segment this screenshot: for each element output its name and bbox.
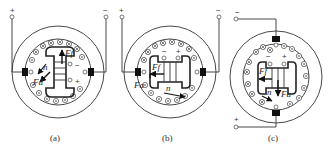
caption-c: (c) xyxy=(268,133,278,143)
svg-text:−: − xyxy=(162,47,167,56)
svg-text:+: + xyxy=(234,115,239,124)
rotor-outline xyxy=(25,39,91,105)
svg-text:−: − xyxy=(235,8,240,17)
terminal-plus: + xyxy=(10,6,15,15)
svg-text:+: + xyxy=(119,6,124,15)
terminal-minus: − xyxy=(103,6,108,15)
svg-text:n: n xyxy=(267,87,272,97)
panel-b: + − − + Ff Fa n (b) xyxy=(119,6,221,143)
brush-left xyxy=(135,68,141,76)
svg-text:+: + xyxy=(75,77,80,86)
svg-text:Ff: Ff xyxy=(258,66,268,76)
brush-top xyxy=(272,36,280,42)
svg-text:Ff: Ff xyxy=(64,48,74,58)
svg-text:n: n xyxy=(166,83,171,93)
dc-motor-diagram: + − − + Ff n Fa (a) + − xyxy=(0,0,331,157)
panel-a: + − − + Ff n Fa (a) xyxy=(10,6,108,143)
brush-left xyxy=(22,68,28,76)
svg-text:Fa: Fa xyxy=(32,77,43,87)
armature-conductors xyxy=(29,39,84,103)
speed-arrow xyxy=(164,93,185,97)
svg-text:Ff: Ff xyxy=(151,62,161,72)
caption-b: (b) xyxy=(162,133,173,143)
svg-text:−: − xyxy=(75,61,80,70)
svg-text:n: n xyxy=(43,62,48,72)
svg-text:+: + xyxy=(282,52,287,61)
brush-right xyxy=(200,68,206,76)
panel-c: − + − + Ff Fa n (c) xyxy=(230,8,322,143)
svg-text:+: + xyxy=(176,47,181,56)
caption-a: (a) xyxy=(50,133,60,143)
svg-text:Fa: Fa xyxy=(133,80,144,90)
brush-right xyxy=(88,68,94,76)
svg-text:−: − xyxy=(216,6,221,15)
svg-text:Fa: Fa xyxy=(280,89,291,99)
svg-text:−: − xyxy=(266,52,271,61)
brush-bottom xyxy=(272,110,280,116)
